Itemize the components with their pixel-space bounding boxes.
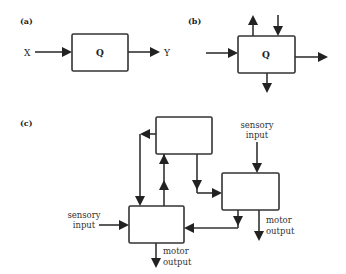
left-sensory-label-1: sensory: [67, 210, 100, 220]
arrowhead-right-icon: [62, 47, 72, 57]
panel-c: (c) sensory input motor output: [20, 117, 295, 268]
left-motor-label-2: output: [163, 257, 192, 267]
arrowhead-down-icon: [151, 258, 161, 268]
arrowhead-right-icon: [228, 48, 238, 58]
panel-a-label: (a): [20, 16, 33, 26]
arrowhead-down-icon: [135, 196, 145, 206]
arrowhead-up-icon: [159, 180, 169, 190]
right-box: [222, 173, 279, 210]
arrowhead-right-icon: [119, 220, 129, 230]
panel-b: (b) Q: [188, 15, 328, 93]
panel-b-label: (b): [188, 16, 201, 26]
input-x-label: X: [24, 48, 31, 58]
top-box: [156, 117, 212, 154]
right-sensory-label-2: input: [246, 130, 269, 140]
diagram-canvas: (a) X Q Y (b) Q (c): [0, 0, 346, 274]
output-y-label: Y: [163, 48, 171, 58]
q-box-b-label: Q: [262, 50, 270, 60]
arrowhead-left-icon: [184, 223, 194, 233]
q-box-a-label: Q: [96, 48, 104, 58]
arrowhead-right-icon: [150, 47, 160, 57]
arrowhead-right-icon: [212, 188, 222, 198]
arrowhead-left-icon: [140, 129, 150, 139]
arrowhead-down-icon: [192, 180, 202, 190]
arrowhead-down-icon: [252, 163, 262, 173]
right-motor-label-2: output: [266, 226, 295, 236]
arrowhead-up-icon: [248, 15, 258, 25]
arrowhead-up-icon: [159, 154, 169, 164]
arrowhead-down-icon: [273, 26, 283, 36]
left-sensory-label-2: input: [73, 220, 96, 230]
right-motor-label-1: motor: [266, 215, 293, 225]
arrowhead-right-icon: [318, 52, 328, 62]
left-box: [129, 206, 184, 243]
left-motor-label-1: motor: [163, 246, 190, 256]
right-sensory-label-1: sensory: [240, 120, 273, 130]
arrowhead-down-icon: [254, 231, 264, 241]
panel-a: (a) X Q Y: [20, 16, 171, 71]
arrowhead-down-icon: [233, 216, 243, 226]
panel-c-label: (c): [20, 118, 33, 128]
arrowhead-down-icon: [262, 83, 272, 93]
